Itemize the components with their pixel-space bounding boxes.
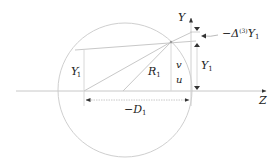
u-label: u [176,75,182,85]
delta-arrow-down [194,27,200,31]
delta-label: −Δ(3)Y1 [222,28,259,41]
r1-label: R1 [148,66,161,79]
d1-label: −D1 [124,104,147,117]
delta-arrow-up [194,43,200,47]
circle-point [170,41,172,43]
v-label: v [176,60,182,70]
y1-label: Y1 [201,60,213,73]
y1-prime-label: Y′1 [71,66,81,79]
z-axis-label: Z [259,95,267,106]
y-axis-label: Y [178,12,185,23]
y1-arrow-down [194,86,200,90]
radius-r1 [123,42,171,91]
ray-upper [171,32,192,42]
delta-pointer-head [201,34,206,39]
circle-diagram [0,0,280,166]
delta-pointer [204,35,218,36]
